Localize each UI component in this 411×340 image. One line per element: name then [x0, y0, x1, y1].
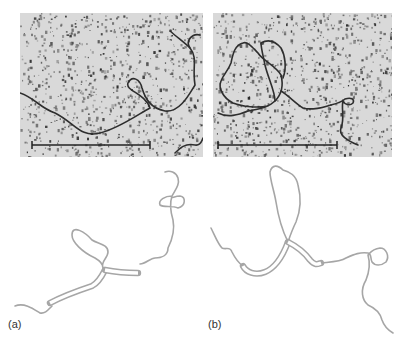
single-strand: [15, 305, 52, 313]
single-strand: [321, 248, 393, 333]
micrograph-a: [20, 13, 203, 157]
trace-diagram-b: [211, 166, 393, 333]
micrograph-a-image: [20, 13, 203, 157]
trace-diagram-a: [15, 171, 184, 313]
micrograph-b: [213, 13, 392, 157]
single-strand: [72, 230, 108, 268]
micrograph-b-image: [213, 13, 392, 157]
panel-label-a: (a): [8, 318, 21, 330]
single-strand: [140, 171, 184, 264]
single-strand: [270, 166, 300, 242]
single-strand: [211, 228, 243, 266]
panel-label-b: (b): [208, 318, 221, 330]
trace-diagrams: [0, 160, 411, 340]
